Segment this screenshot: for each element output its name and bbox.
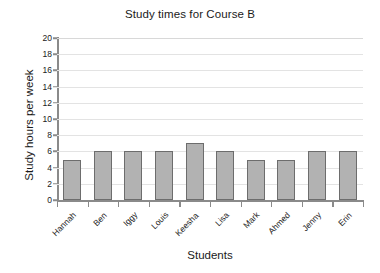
x-tick-mark (57, 201, 58, 207)
bar[interactable] (339, 151, 357, 200)
bar-slot (118, 38, 149, 200)
x-axis-title: Students (57, 249, 363, 261)
x-tick-mark (179, 201, 180, 207)
y-tick-label: 2 (47, 179, 57, 189)
y-tick-label: 20 (43, 33, 57, 43)
bar-slot (332, 38, 363, 200)
bar-slot (210, 38, 241, 200)
bar[interactable] (216, 151, 234, 200)
y-tick-label: 0 (47, 195, 57, 205)
x-tick-mark (332, 201, 333, 207)
x-tick-label: Keesha (173, 210, 200, 237)
x-tick-mark (118, 201, 119, 207)
x-tick-mark (302, 201, 303, 207)
x-tick-label: Lisa (213, 210, 231, 228)
y-axis-title: Study hours per week (23, 40, 35, 210)
bar[interactable] (63, 160, 81, 201)
y-tick-label: 10 (43, 114, 57, 124)
y-tick-label: 4 (47, 163, 57, 173)
bar-slot (179, 38, 210, 200)
y-tick-label: 16 (43, 65, 57, 75)
x-tick-label: Mark (241, 210, 261, 230)
plot-area: 02468101214161820 (57, 38, 363, 200)
x-tick-mark (88, 201, 89, 207)
bar[interactable] (186, 143, 204, 200)
x-tick-mark (363, 201, 364, 207)
bar[interactable] (247, 160, 265, 201)
x-tick-label: Ben (91, 210, 109, 228)
bar[interactable] (277, 160, 295, 201)
x-tick-mark (210, 201, 211, 207)
x-tick-label: Louis (149, 210, 170, 231)
x-tick-label: Erin (336, 210, 354, 228)
bar-chart-figure: Study times for Course B Study hours per… (0, 0, 380, 273)
bar[interactable] (124, 151, 142, 200)
x-tick-label: Jenny (300, 210, 323, 233)
bar-slot (302, 38, 333, 200)
x-tick-label: Ahmed (266, 210, 292, 236)
bar[interactable] (308, 151, 326, 200)
y-tick-label: 14 (43, 82, 57, 92)
x-tick-mark (149, 201, 150, 207)
bar-slot (88, 38, 119, 200)
x-tick-label: Hannah (50, 210, 78, 238)
x-tick-mark (241, 201, 242, 207)
bar[interactable] (155, 151, 173, 200)
y-tick-label: 18 (43, 49, 57, 59)
y-tick-label: 6 (47, 146, 57, 156)
chart-title: Study times for Course B (0, 8, 380, 20)
bar-series (57, 38, 363, 200)
x-tick-mark (271, 201, 272, 207)
bar-slot (241, 38, 272, 200)
y-tick-label: 12 (43, 98, 57, 108)
y-tick-label: 8 (47, 130, 57, 140)
x-tick-label: Iggy (121, 210, 139, 228)
bar-slot (57, 38, 88, 200)
bar-slot (149, 38, 180, 200)
bar-slot (271, 38, 302, 200)
bar[interactable] (94, 151, 112, 200)
